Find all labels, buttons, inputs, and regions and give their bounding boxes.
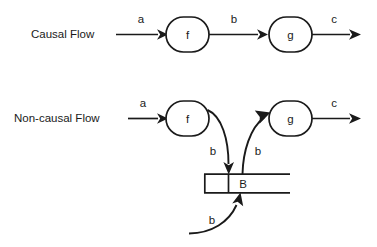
edge-a-noncausal: a xyxy=(128,97,168,124)
node-g-causal: g xyxy=(269,17,312,52)
non-causal-flow-row-label: Non-causal Flow xyxy=(14,112,100,124)
non-causal-flow-row: Non-causal Flow a f b b xyxy=(14,97,361,234)
edge-b-up-noncausal-label: b xyxy=(255,145,261,157)
causal-flow-row: Causal Flow a f b g xyxy=(31,13,361,52)
causal-flow-row-label: Causal Flow xyxy=(31,28,95,40)
signal-flow-diagram: Causal Flow a f b g xyxy=(0,0,377,247)
edge-b-input-noncausal-arrowhead xyxy=(232,193,243,207)
edge-b-input-noncausal-label: b xyxy=(209,214,215,226)
diagram-canvas: Causal Flow a f b g xyxy=(0,0,377,247)
edge-c-noncausal-label: c xyxy=(331,97,337,109)
edge-b-input-noncausal: b xyxy=(189,193,243,234)
edge-a-causal-label: a xyxy=(138,13,145,25)
buffer-label: B xyxy=(239,178,247,190)
node-f-causal: f xyxy=(166,17,209,52)
node-g-noncausal: g xyxy=(269,101,312,136)
edge-b-down-noncausal: b xyxy=(208,110,235,175)
edge-b-causal-label: b xyxy=(231,13,237,25)
edge-c-noncausal-arrowhead xyxy=(349,113,361,124)
edge-c-causal: c xyxy=(312,13,361,40)
edge-b-down-noncausal-label: b xyxy=(210,145,216,157)
edge-a-causal: a xyxy=(116,13,168,40)
buffer-structure: B xyxy=(204,174,290,193)
edge-b-up-noncausal-arrowhead xyxy=(255,111,271,124)
node-f-noncausal: f xyxy=(166,101,209,136)
edge-b-causal: b xyxy=(209,13,268,40)
edge-c-causal-arrowhead xyxy=(349,29,361,40)
edge-c-noncausal: c xyxy=(312,97,361,124)
node-g-causal-label: g xyxy=(287,29,293,41)
edge-b-up-noncausal: b xyxy=(243,111,271,175)
edge-c-causal-label: c xyxy=(331,13,337,25)
edge-b-causal-arrowhead xyxy=(257,29,268,40)
node-g-noncausal-label: g xyxy=(287,113,293,125)
edge-a-noncausal-label: a xyxy=(140,97,147,109)
